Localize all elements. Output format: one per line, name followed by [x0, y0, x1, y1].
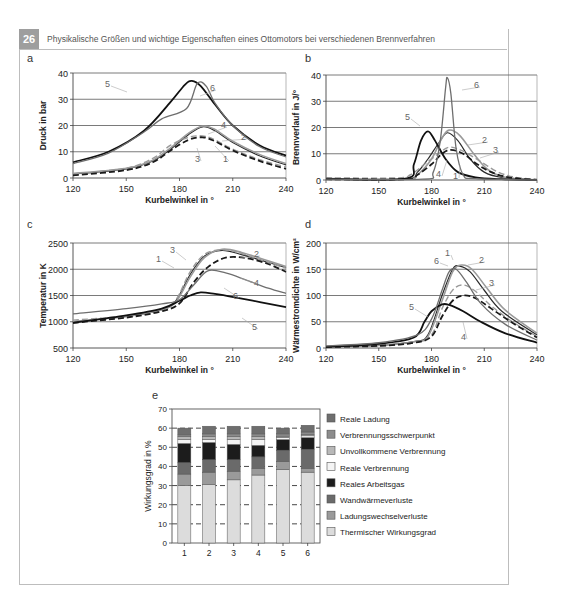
y-tick-label: 70	[158, 405, 167, 414]
bar-segment	[203, 434, 216, 437]
bar-segment	[178, 486, 191, 543]
bar-segment	[277, 462, 290, 470]
y-tick-label: 1000	[48, 317, 68, 327]
curve-label-2: 2	[479, 255, 484, 265]
x-tick-label: 3	[231, 548, 236, 558]
legend-swatch	[327, 527, 335, 535]
bar-segment	[227, 434, 240, 437]
curve-label-3: 3	[493, 145, 498, 155]
bar-segment	[277, 434, 290, 436]
bar-segment	[277, 450, 290, 461]
bar-segment	[301, 449, 314, 468]
bar-segment	[252, 445, 265, 456]
y-tick-label: 60	[158, 424, 167, 433]
panel-letter-c: c	[27, 218, 33, 230]
x-tick-label: 150	[371, 186, 386, 196]
chart-a-pressure: 010203040120150180210240Kurbelwinkel in …	[38, 69, 294, 206]
curve-label-1: 1	[453, 171, 458, 181]
legend-swatch	[327, 463, 335, 471]
curve-label-3: 3	[195, 154, 200, 164]
y-tick-label: 40	[158, 462, 167, 471]
curve-label-5: 5	[105, 79, 110, 89]
curve-label-4: 4	[461, 332, 466, 342]
x-tick-label: 120	[65, 184, 80, 194]
legend-swatch	[327, 430, 335, 438]
legend-swatch	[327, 414, 335, 422]
x-tick-label: 120	[65, 354, 80, 364]
x-tick-label: 240	[278, 184, 293, 194]
bar-segment	[252, 434, 265, 437]
bar-segment	[277, 438, 290, 440]
curve-5	[326, 131, 537, 180]
y-tick-label: 150	[306, 265, 321, 275]
y-tick-label: 1500	[48, 291, 68, 301]
bar-segment	[227, 460, 240, 471]
legend-swatch	[327, 511, 335, 519]
y-axis-title: Wärmestromdichte in W/cm²	[291, 238, 301, 353]
x-tick-label: 180	[424, 186, 439, 196]
bar-segment	[178, 440, 191, 444]
y-tick-label: 40	[58, 69, 68, 79]
bar-segment	[227, 426, 240, 434]
bar-segment	[178, 428, 191, 435]
x-tick-label: 2	[207, 548, 212, 558]
bar-segment	[301, 438, 314, 449]
x-tick-label: 5	[281, 548, 286, 558]
curve-5	[73, 81, 286, 162]
curve-label-5: 5	[409, 302, 414, 312]
legend-swatch	[327, 479, 335, 487]
curve-label-2: 2	[241, 132, 246, 142]
y-axis-title: Wirkungsgrad in %	[143, 440, 153, 512]
curve-4	[73, 257, 286, 323]
curve-label-6: 6	[434, 256, 439, 266]
curve-label-1: 1	[445, 248, 450, 258]
y-tick-label: 500	[53, 344, 68, 354]
bar-segment	[252, 475, 265, 543]
curve-label-3: 3	[489, 278, 494, 288]
x-tick-label: 4	[256, 548, 261, 558]
curve-1	[326, 133, 537, 180]
x-tick-label: 120	[318, 186, 333, 196]
bar-segment	[301, 425, 314, 432]
y-tick-label: 200	[306, 239, 321, 249]
x-tick-label: 6	[305, 548, 310, 558]
curve-label-5: 5	[252, 322, 257, 332]
bar-segment	[277, 428, 290, 434]
x-tick-label: 240	[278, 354, 293, 364]
x-axis-title: Kurbelwinkel in °	[397, 197, 466, 207]
bar-segment	[227, 444, 240, 459]
bar-segment	[227, 480, 240, 543]
legend-swatch	[327, 495, 335, 503]
chart-d-heat-flux: 050100150200120150180210240Kurbelwinkel …	[291, 238, 545, 375]
y-tick-label: 10	[311, 149, 321, 159]
y-tick-label: 0	[163, 539, 168, 548]
y-tick-label: 0	[63, 174, 68, 184]
legend-item: Verbrennungsschwerpunkt	[340, 431, 436, 440]
chart-c-temperature: 5001000150020002500120150180210240Kurbel…	[38, 239, 294, 376]
curve-3	[326, 285, 537, 347]
curve-6	[73, 270, 286, 314]
figure-canvas: a b c d e 010203040120150180210240Kurbel…	[0, 0, 577, 603]
x-tick-label: 240	[529, 354, 544, 364]
y-tick-label: 10	[58, 147, 68, 157]
y-tick-label: 30	[58, 95, 68, 105]
x-tick-label: 150	[119, 354, 134, 364]
bar-segment	[178, 443, 191, 462]
bar-segment	[252, 437, 265, 440]
bar-segment	[178, 474, 191, 485]
curve-label-6: 6	[233, 291, 238, 301]
y-tick-label: 20	[58, 121, 68, 131]
bar-segment	[227, 440, 240, 445]
curve-label-6: 6	[474, 80, 479, 90]
bar-segment	[203, 443, 216, 460]
bar-segment	[203, 472, 216, 484]
x-tick-label: 150	[119, 184, 134, 194]
x-tick-label: 120	[318, 354, 333, 364]
y-axis-title: Temperatur in K	[38, 262, 48, 327]
bar-segment	[252, 468, 265, 475]
bar-segment	[203, 437, 216, 440]
x-tick-label: 180	[172, 354, 187, 364]
curve-1	[73, 127, 286, 174]
bar-segment	[203, 440, 216, 443]
x-axis-title: Kurbelwinkel in °	[145, 195, 214, 205]
